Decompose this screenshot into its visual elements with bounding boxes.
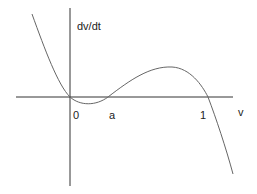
diagram-canvas: [0, 0, 257, 194]
tick-label-one: 1: [200, 110, 206, 121]
tick-label-zero: 0: [73, 110, 79, 121]
cubic-curve: [32, 14, 233, 174]
y-axis-label: dv/dt: [77, 21, 101, 32]
x-axis-label: v: [238, 107, 244, 118]
tick-label-a: a: [109, 110, 115, 121]
